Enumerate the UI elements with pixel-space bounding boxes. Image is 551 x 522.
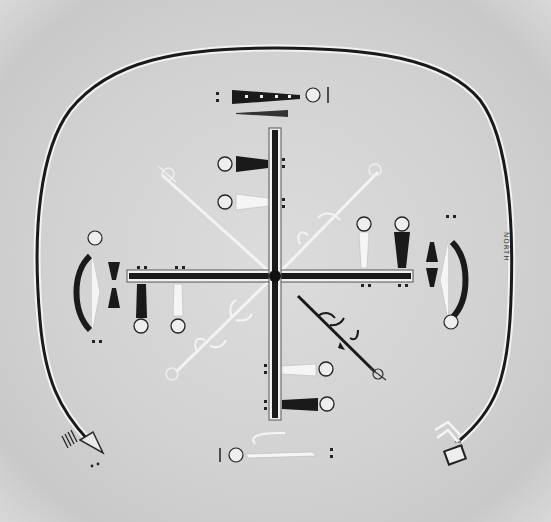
central-cross: [127, 128, 413, 420]
figures-left: [77, 231, 186, 343]
sandpainting-artwork: [0, 0, 551, 522]
plant-northwest: [158, 166, 272, 274]
north-label: NORTH: [496, 232, 510, 272]
sandpainting-figure: NORTH: [0, 0, 551, 522]
